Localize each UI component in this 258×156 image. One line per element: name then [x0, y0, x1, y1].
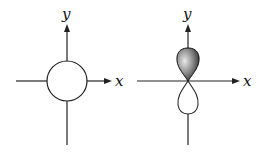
x-axis-label: x — [243, 72, 252, 90]
y-axis-label: y — [61, 5, 71, 23]
y-arrow-icon — [64, 24, 70, 32]
s-orbital-panel: y x — [16, 5, 124, 145]
x-axis-label: x — [115, 72, 124, 90]
orbital-diagram: y x y x — [0, 0, 258, 156]
x-arrow-icon — [232, 78, 240, 84]
upper-lobe — [177, 48, 199, 81]
x-arrow-icon — [104, 78, 112, 84]
y-axis-label: y — [182, 5, 192, 23]
p-orbital-panel: y x — [137, 5, 252, 145]
s-orbital-circle — [47, 61, 87, 101]
y-arrow-icon — [185, 24, 191, 32]
lower-lobe — [178, 81, 198, 114]
